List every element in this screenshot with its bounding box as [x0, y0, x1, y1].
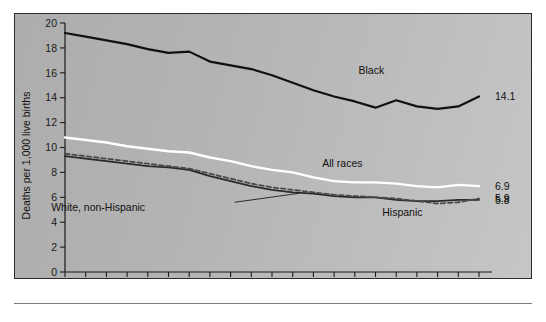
end-label-black: 14.1 [495, 90, 516, 102]
bottom-divider [14, 303, 532, 304]
white-non-hispanic-label: White, non-Hispanic [51, 201, 145, 213]
y-tick-label: 16 [45, 67, 57, 79]
all-races-label: All races [322, 157, 362, 169]
line-chart: 0246810121416182019831985199019952000200… [14, 13, 532, 279]
y-tick-label: 2 [51, 241, 57, 253]
black-label: Black [359, 64, 385, 76]
y-tick-label: 8 [51, 166, 57, 178]
series-line-all-races [65, 138, 479, 188]
y-tick-label: 10 [45, 141, 57, 153]
chart-page: 0246810121416182019831985199019952000200… [0, 0, 546, 322]
series-line-hispanic [65, 154, 479, 204]
y-tick-label: 14 [45, 91, 57, 103]
y-tick-label: 0 [51, 266, 57, 278]
hispanic-label: Hispanic [382, 206, 422, 218]
y-tick-label: 12 [45, 116, 57, 128]
y-tick-label: 4 [51, 216, 57, 228]
series-line-white-non-hispanic [65, 156, 479, 201]
y-tick-label: 20 [45, 17, 57, 29]
white-non-hispanic-leader-line [235, 193, 299, 202]
series-line-black [65, 33, 479, 109]
end-label-white: 5.8 [495, 194, 510, 206]
y-axis-title: Deaths per 1,000 live births [20, 92, 32, 220]
y-tick-label: 18 [45, 42, 57, 54]
end-label-all-races: 6.9 [495, 180, 510, 192]
